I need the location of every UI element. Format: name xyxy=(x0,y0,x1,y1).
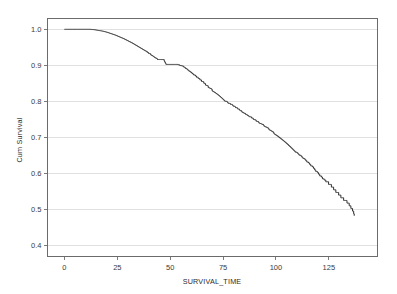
x-tick-label-25: 25 xyxy=(113,263,121,272)
y-tick-label-0.7: 0.7 xyxy=(31,133,41,142)
x-tick-label-125: 125 xyxy=(323,263,336,272)
survival-chart: 0255075100125 0.40.50.60.70.80.91.0 SURV… xyxy=(0,0,397,294)
x-axis-title: SURVIVAL_TIME xyxy=(183,277,242,286)
y-tick-label-0.4: 0.4 xyxy=(31,241,41,250)
x-tick-label-50: 50 xyxy=(166,263,174,272)
y-tick-label-0.9: 0.9 xyxy=(31,61,41,70)
y-tick-label-1.0: 1.0 xyxy=(31,25,41,34)
x-tick-label-75: 75 xyxy=(219,263,227,272)
y-tick-label-0.6: 0.6 xyxy=(31,169,41,178)
chart-page: 0255075100125 0.40.50.60.70.80.91.0 SURV… xyxy=(0,0,397,294)
x-tick-label-0: 0 xyxy=(62,263,66,272)
y-tick-label-0.5: 0.5 xyxy=(31,205,41,214)
chart-background xyxy=(0,0,397,294)
y-axis-title: Cum Survival xyxy=(15,117,24,162)
x-tick-label-100: 100 xyxy=(270,263,283,272)
y-tick-label-0.8: 0.8 xyxy=(31,97,41,106)
